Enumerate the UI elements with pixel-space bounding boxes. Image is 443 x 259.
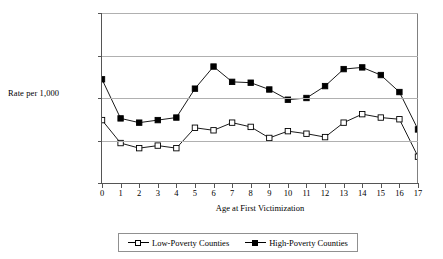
data-point-open-square bbox=[322, 134, 327, 139]
data-point-filled-square bbox=[174, 115, 179, 120]
data-point-filled-square bbox=[118, 116, 123, 121]
chart-figure: Rate per 1,000 Age at First Victimizatio… bbox=[0, 0, 443, 259]
gridline bbox=[102, 13, 418, 14]
data-point-filled-square bbox=[267, 87, 272, 92]
data-point-open-square bbox=[304, 131, 309, 136]
data-point-filled-square bbox=[248, 80, 253, 85]
data-point-open-square bbox=[397, 117, 402, 122]
x-tick-label: 11 bbox=[297, 189, 315, 198]
filled-square-marker-icon bbox=[245, 238, 266, 247]
x-tick-label: 10 bbox=[279, 189, 297, 198]
x-tick-label: 2 bbox=[130, 189, 148, 198]
data-point-filled-square bbox=[360, 65, 365, 70]
data-point-filled-square bbox=[322, 83, 327, 88]
data-point-filled-square bbox=[102, 77, 105, 82]
x-tick-label: 5 bbox=[186, 189, 204, 198]
plot-area bbox=[102, 13, 418, 183]
x-tick-label: 0 bbox=[93, 189, 111, 198]
data-point-filled-square bbox=[378, 72, 383, 77]
series-line bbox=[102, 114, 418, 156]
data-point-open-square bbox=[155, 143, 160, 148]
x-tick-label: 6 bbox=[205, 189, 223, 198]
data-point-open-square bbox=[136, 145, 141, 150]
data-point-open-square bbox=[248, 124, 253, 129]
data-point-filled-square bbox=[192, 86, 197, 91]
data-point-filled-square bbox=[211, 64, 216, 69]
data-point-open-square bbox=[102, 117, 105, 122]
x-tick-label: 12 bbox=[316, 189, 334, 198]
x-axis-title: Age at First Victimization bbox=[102, 203, 418, 213]
data-point-filled-square bbox=[155, 117, 160, 122]
x-tick-label: 1 bbox=[112, 189, 130, 198]
data-point-filled-square bbox=[397, 89, 402, 94]
legend-label-low-poverty: Low-Poverty Counties bbox=[152, 238, 229, 248]
x-tick-label: 8 bbox=[242, 189, 260, 198]
data-point-open-square bbox=[192, 125, 197, 130]
x-tick-label: 4 bbox=[167, 189, 185, 198]
data-point-open-square bbox=[378, 115, 383, 120]
x-tick-label: 15 bbox=[372, 189, 390, 198]
x-tick-label: 9 bbox=[260, 189, 278, 198]
y-axis-title: Rate per 1,000 bbox=[8, 88, 80, 98]
data-point-open-square bbox=[174, 145, 179, 150]
gridline bbox=[102, 56, 418, 57]
x-tick-label: 17 bbox=[409, 189, 427, 198]
data-point-filled-square bbox=[341, 66, 346, 71]
legend-label-high-poverty: High-Poverty Counties bbox=[269, 238, 348, 248]
chart-legend: Low-Poverty Counties High-Poverty Counti… bbox=[118, 233, 358, 252]
series-low-poverty-counties bbox=[102, 111, 418, 159]
data-point-filled-square bbox=[136, 120, 141, 125]
data-point-open-square bbox=[341, 120, 346, 125]
open-square-marker-icon bbox=[128, 238, 149, 247]
data-point-open-square bbox=[229, 120, 234, 125]
legend-entry-low-poverty[interactable]: Low-Poverty Counties bbox=[128, 238, 229, 248]
legend-entry-high-poverty[interactable]: High-Poverty Counties bbox=[245, 238, 348, 248]
x-axis-line bbox=[102, 183, 419, 184]
data-point-open-square bbox=[211, 128, 216, 133]
x-tick-label: 13 bbox=[335, 189, 353, 198]
x-tick-label: 16 bbox=[390, 189, 408, 198]
x-tick-label: 14 bbox=[353, 189, 371, 198]
x-tick-label: 7 bbox=[223, 189, 241, 198]
data-point-open-square bbox=[285, 128, 290, 133]
data-point-open-square bbox=[360, 111, 365, 116]
data-point-filled-square bbox=[229, 79, 234, 84]
gridline bbox=[102, 141, 418, 142]
gridline bbox=[102, 98, 418, 99]
x-tick-label: 3 bbox=[149, 189, 167, 198]
